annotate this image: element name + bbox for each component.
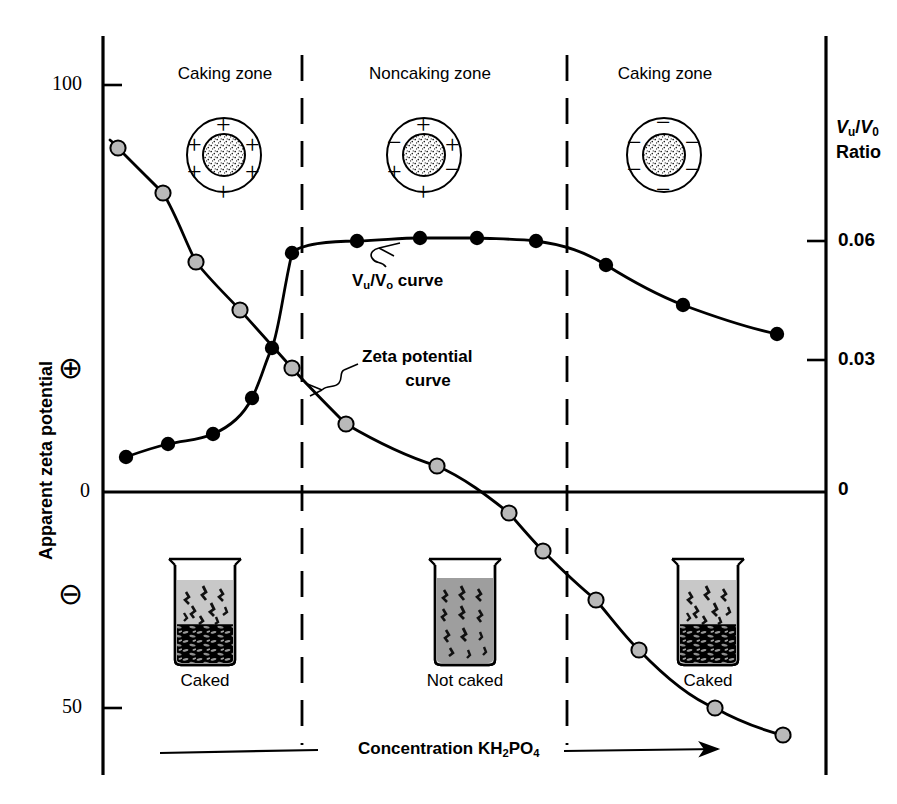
minus-sign-icon: − [656,108,671,138]
vuvo-curve-label: Vu/Vo curve [352,272,443,292]
beaker-caption-middle: Not caked [405,672,525,690]
right-tick-label-0: 0 [838,479,849,499]
minus-sign-icon: − [627,128,642,158]
beaker-caked-left [169,559,241,665]
plus-sign-icon: + [187,130,202,160]
right-axis-title: Vu/V0 [836,118,879,138]
right-axis-title-line2: Ratio [836,143,881,162]
right-tick-label-006: 0.06 [838,230,875,250]
zone-label-caking-right: Caking zone [600,65,730,83]
plus-sign-icon: + [245,157,260,187]
right-axis-title-numerator: V [836,117,848,137]
plus-sign-icon: + [187,157,202,187]
left-axis-ticks [103,85,122,708]
minus-sign-icon: − [627,155,642,185]
beaker-caption-right: Caked [653,672,763,690]
minus-sign-icon: − [685,155,700,185]
zeta-potential-caking-figure: + + + + + + + − + + − + − − − − − − Caki… [0,0,897,804]
negative-polarity-icon: ⊖ [58,578,83,610]
beaker-caption-left: Caked [150,672,260,690]
plus-sign-icon: + [387,157,402,187]
plus-sign-icon: + [416,177,431,207]
x-axis-label: Concentration KH2PO4 [358,740,540,760]
zone-label-caking-left: Caking zone [160,65,290,83]
right-axis-ticks [807,241,826,360]
plus-sign-icon: + [216,110,231,140]
vuvo-label-tail: curve [393,271,443,290]
right-tick-label-003: 0.03 [838,349,875,369]
minus-sign-icon: − [445,155,460,185]
right-axis-title-denominator-sub: 0 [872,125,879,139]
plus-sign-icon: + [216,177,231,207]
x-axis-label-main: Concentration KH [358,739,503,758]
minus-sign-icon: − [387,128,402,158]
x-axis-label-sub2: 4 [533,747,539,759]
vuvo-label-denominator: V [375,271,386,290]
minus-sign-icon: − [685,128,700,158]
left-tick-label-50: 50 [62,696,82,717]
minus-sign-icon: − [656,175,671,205]
beaker-not-caked [429,559,501,665]
zeta-curve-label-line1: Zeta potential [362,348,473,366]
plus-sign-icon: + [245,130,260,160]
zeta-curve-label-line2: curve [362,372,494,390]
zone-label-noncaking: Noncaking zone [355,65,505,83]
right-axis-title-denominator: V [860,117,872,137]
positive-polarity-icon: ⊕ [58,352,83,384]
left-tick-label-0: 0 [80,480,90,501]
vuvo-label-arrow [371,243,400,267]
beaker-caked-right [672,559,744,665]
plus-sign-icon: + [416,110,431,140]
left-axis-title: Apparent zeta potential [36,361,57,560]
vuvo-label-numerator: V [352,271,363,290]
left-tick-label-100: 100 [52,73,82,94]
x-axis-label-mid: PO [509,739,534,758]
